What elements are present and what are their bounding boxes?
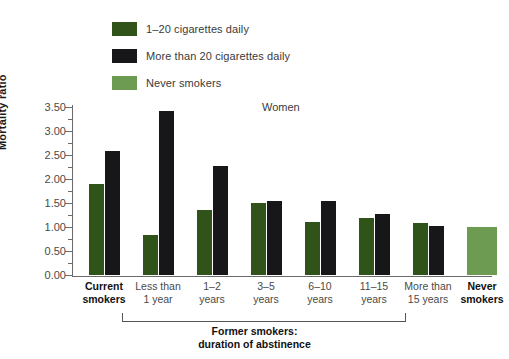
- y-axis-tick-label: 0.50: [45, 245, 66, 257]
- bar-group: [197, 166, 228, 275]
- legend-item-more-than-20-cigarettes-daily: More than 20 cigarettes daily: [112, 45, 290, 67]
- bar: [143, 235, 158, 275]
- bar-group: [251, 201, 282, 275]
- bar: [213, 166, 228, 275]
- y-axis-tick-label: 1.50: [45, 197, 66, 209]
- y-axis-tick-label: 3.00: [45, 125, 66, 137]
- bar: [467, 227, 497, 275]
- bar: [305, 222, 320, 275]
- bar: [267, 201, 282, 275]
- mortality-ratio-bar-chart: 1–20 cigarettes daily More than 20 cigar…: [0, 0, 509, 359]
- y-axis-tick: [65, 131, 72, 132]
- y-axis-tick-label: 1.00: [45, 221, 66, 233]
- y-axis-tick: [65, 179, 72, 180]
- bracket-tick-left: [122, 313, 123, 322]
- bar-group: [359, 214, 390, 275]
- legend-swatch-light-green: [112, 76, 137, 90]
- y-axis-minor-tick: [68, 215, 72, 216]
- category-label-line1: Never: [446, 280, 509, 293]
- x-axis-category-labels: CurrentsmokersLess than1 year1–2years3–5…: [72, 280, 492, 314]
- bar-group: [89, 151, 120, 275]
- y-axis-minor-tick: [68, 263, 72, 264]
- x-axis-category-label: Neversmokers: [446, 280, 509, 305]
- x-axis-group-label-line1: Former smokers:: [0, 325, 509, 338]
- legend-label: Never smokers: [146, 77, 221, 89]
- x-axis-group-label: Former smokers: duration of abstinence: [0, 325, 509, 350]
- x-axis-group-label-line2: duration of abstinence: [0, 338, 509, 351]
- bar: [429, 226, 444, 275]
- bar-group: [413, 223, 444, 275]
- legend-item-never-smokers: Never smokers: [112, 72, 290, 94]
- bar: [251, 203, 266, 275]
- y-axis-minor-tick: [68, 119, 72, 120]
- y-axis-tick-labels: 3.503.002.502.001.501.000.500.00: [22, 107, 66, 275]
- y-axis-tick: [65, 275, 72, 276]
- bar: [413, 223, 428, 275]
- bar: [359, 218, 374, 275]
- former-smokers-bracket: [122, 313, 406, 322]
- y-axis-title: Mortality ratio: [0, 74, 8, 150]
- y-axis-tick: [65, 203, 72, 204]
- y-axis-tick: [65, 155, 72, 156]
- legend-swatch-black: [112, 49, 137, 63]
- y-axis-tick-label: 2.00: [45, 173, 66, 185]
- y-axis-tick-label: 3.50: [45, 101, 66, 113]
- legend-swatch-dark-green: [112, 22, 137, 36]
- y-axis-tick-label: 0.00: [45, 269, 66, 281]
- bracket-line: [122, 321, 406, 322]
- category-label-line2: smokers: [446, 293, 509, 306]
- y-axis-minor-tick: [68, 167, 72, 168]
- bar: [197, 210, 212, 275]
- bar-group: [305, 201, 336, 275]
- y-axis-minor-tick: [68, 143, 72, 144]
- y-axis-tick-label: 2.50: [45, 149, 66, 161]
- x-axis-line: [72, 276, 492, 277]
- y-axis-minor-tick: [68, 191, 72, 192]
- plot-area: [72, 107, 492, 275]
- bar: [375, 214, 390, 275]
- legend-item-1-20-cigarettes-daily: 1–20 cigarettes daily: [112, 18, 290, 40]
- bracket-tick-right: [405, 313, 406, 322]
- bar: [89, 184, 104, 275]
- bar-group: [143, 111, 174, 275]
- chart-legend: 1–20 cigarettes daily More than 20 cigar…: [112, 18, 290, 99]
- y-axis-minor-tick: [68, 239, 72, 240]
- bar-group: [467, 227, 497, 275]
- bar: [105, 151, 120, 275]
- y-axis-tick: [65, 251, 72, 252]
- bar: [159, 111, 174, 275]
- legend-label: 1–20 cigarettes daily: [146, 23, 249, 35]
- y-axis-tick: [65, 227, 72, 228]
- bar: [321, 201, 336, 275]
- y-axis-tick: [65, 107, 72, 108]
- legend-label: More than 20 cigarettes daily: [146, 50, 290, 62]
